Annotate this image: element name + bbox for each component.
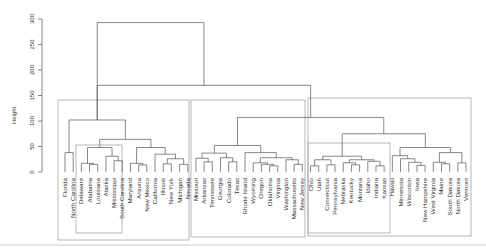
leaf-label: Hawaii <box>388 178 395 197</box>
leaf-label: California <box>151 177 158 204</box>
leaf-label: Montana <box>356 177 363 202</box>
leaf-label: Virginia <box>274 177 281 198</box>
y-tick-label: 150 <box>29 90 35 101</box>
leaf-label: Georgia <box>216 177 223 200</box>
leaf-label: Mississippi <box>110 178 117 208</box>
y-tick-label: 0 <box>29 170 35 174</box>
leaf-label: North Dakota <box>454 177 461 214</box>
y-tick-label: 50 <box>29 143 35 150</box>
leaf-label: Rhode Island <box>241 177 248 214</box>
leaf-label: Utah <box>315 177 322 191</box>
leaf-label: New Jersey <box>298 177 305 210</box>
leaf-label: Tennessee <box>208 177 215 207</box>
leaf-label: Nevada <box>184 177 191 199</box>
leaf-label: Wyoming <box>249 177 256 203</box>
leaf-label: Pennsylvania <box>331 177 338 214</box>
cluster-2-box <box>191 100 305 237</box>
leaf-label: Idaho <box>364 177 371 193</box>
y-axis-label: Height <box>11 106 17 124</box>
leaf-label: New York <box>167 177 174 204</box>
y-tick-label: 250 <box>29 39 35 50</box>
leaf-label: Iowa <box>413 177 420 191</box>
dendrogram-svg: 050100150200250300HeightFloridaNorth Car… <box>0 0 486 250</box>
leaf-label: Missouri <box>192 178 199 201</box>
leaf-label: Arkansas <box>200 178 207 204</box>
leaf-label: New Hampshire <box>421 177 428 222</box>
leaf-label: Illinois <box>159 178 166 195</box>
leaf-label: Ohio <box>307 177 314 191</box>
leaf-label: Washington <box>282 177 289 210</box>
dendrogram-chart: 050100150200250300HeightFloridaNorth Car… <box>0 0 486 250</box>
leaf-label: West Virginia <box>429 177 436 214</box>
leaf-label: South Carolina <box>118 177 125 218</box>
leaf-label: Wisconsin <box>405 177 412 206</box>
leaf-label: Louisiana <box>94 177 101 204</box>
leaf-label: Minnesota <box>397 177 404 206</box>
leaf-label: North Carolina <box>69 177 76 217</box>
leaf-label: Oregon <box>257 177 264 198</box>
leaf-label: Michigan <box>176 177 183 202</box>
leaf-label: Delaware <box>77 177 84 204</box>
leaf-label: Kentucky <box>347 177 354 203</box>
leaf-label: Maine <box>437 177 444 194</box>
leaf-label: Texas <box>233 178 240 194</box>
leaf-label: Alabama <box>86 177 93 202</box>
leaf-label: Nebraska <box>339 177 346 204</box>
leaf-label: Indiana <box>372 177 379 198</box>
leaf-label: Colorado <box>225 177 232 203</box>
leaf-label: Arizona <box>135 177 142 199</box>
leaf-label: Vermont <box>462 178 469 201</box>
leaf-label: New Mexico <box>143 177 150 211</box>
y-tick-label: 300 <box>29 13 35 24</box>
y-tick-label: 100 <box>29 115 35 126</box>
leaf-label: Florida <box>61 177 68 196</box>
y-tick-label: 200 <box>29 64 35 75</box>
leaf-label: Alaska <box>102 177 109 196</box>
leaf-label: Oklahoma <box>266 177 273 206</box>
leaf-label: Connecticut <box>323 178 330 211</box>
leaf-label: Kansas <box>380 178 387 199</box>
leaf-label: Maryland <box>126 177 133 203</box>
leaf-label: Massachusetts <box>290 178 297 219</box>
leaf-label: South Dakota <box>446 177 453 215</box>
